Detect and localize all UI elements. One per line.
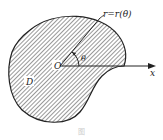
- curve-label: r=r(θ): [103, 9, 132, 19]
- polar-region-diagram: r=r(θ) θ O D x: [0, 0, 163, 140]
- region-label: D: [25, 77, 33, 87]
- region-d: [0, 0, 163, 140]
- origin-label: O: [54, 61, 62, 71]
- angle-label: θ: [81, 54, 86, 63]
- figure-caption: 图: [0, 126, 163, 136]
- axis-label: x: [150, 68, 155, 78]
